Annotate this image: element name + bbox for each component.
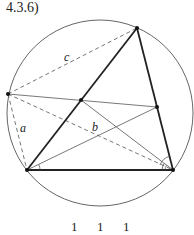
- circumcircle: [7, 20, 193, 206]
- point-p: [6, 92, 10, 96]
- point-c: [135, 26, 139, 30]
- footer-term-2: 1: [97, 219, 104, 235]
- label-a: a: [20, 121, 26, 135]
- label-c: c: [64, 50, 70, 64]
- point-a: [25, 168, 29, 172]
- segment-c-dashed: [8, 28, 137, 94]
- line-a-to-q: [27, 107, 157, 170]
- angle-arc-b-outer: [162, 163, 164, 170]
- point-m: [79, 98, 83, 102]
- point-b: [171, 168, 175, 172]
- line-m-to-b: [81, 100, 173, 170]
- footer-term-1: 1: [71, 219, 78, 235]
- geometry-diagram: c a b: [0, 0, 194, 235]
- point-q: [155, 105, 159, 109]
- footer-term-3: 1: [123, 219, 130, 235]
- label-b: b: [92, 120, 98, 134]
- segment-b-dashed: [8, 94, 173, 170]
